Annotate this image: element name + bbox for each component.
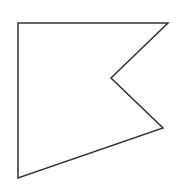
- diagram-svg: [0, 0, 178, 196]
- diagram-canvas: [0, 0, 178, 196]
- concave-pentagon-shape: [18, 23, 168, 178]
